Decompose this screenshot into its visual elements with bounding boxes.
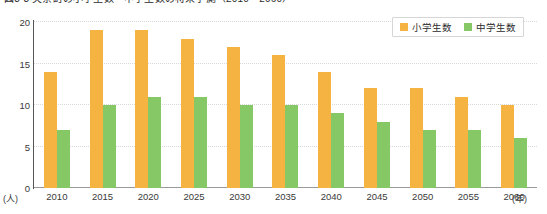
y-axis-tick-labels: 05101520 (0, 22, 30, 188)
bar (227, 47, 240, 188)
x-tick-label: 2030 (229, 191, 250, 202)
bar-group (400, 22, 446, 188)
y-tick-label: 15 (2, 58, 30, 69)
legend-label: 小学生数 (412, 20, 452, 34)
y-tick-label: 5 (2, 141, 30, 152)
x-tick-label: 2045 (366, 191, 387, 202)
bar-group (446, 22, 492, 188)
legend-item[interactable]: 中学生数 (464, 20, 516, 34)
x-tick-label: 2050 (412, 191, 433, 202)
bar-group (125, 22, 171, 188)
bar (103, 105, 116, 188)
x-tick-label: 2010 (46, 191, 67, 202)
bar-group (491, 22, 537, 188)
bar-group (171, 22, 217, 188)
y-tick-label: 10 (2, 100, 30, 111)
bar (377, 122, 390, 188)
bar (455, 97, 468, 188)
legend-item[interactable]: 小学生数 (400, 20, 452, 34)
bar (364, 88, 377, 188)
bar (285, 105, 298, 188)
x-axis-tick-labels: 2010201520202025203020352040204520502055… (34, 191, 537, 205)
legend-swatch-icon (464, 23, 472, 31)
x-tick-label: 2055 (458, 191, 479, 202)
chart-title: 図3-3 矢祭町の小学生数・中学生数の将来予測（2010～2060） (4, 0, 293, 5)
bar (501, 105, 514, 188)
bar-group (80, 22, 126, 188)
chart-legend: 小学生数中学生数 (392, 17, 524, 37)
x-tick-label: 2040 (321, 191, 342, 202)
x-axis-unit-label: (年) (512, 192, 527, 205)
bar (194, 97, 207, 188)
bar (410, 88, 423, 188)
x-tick-label: 2035 (275, 191, 296, 202)
bar (57, 130, 70, 188)
bar (240, 105, 253, 188)
bar (514, 138, 527, 188)
x-tick-label: 2015 (92, 191, 113, 202)
chart-figure: 図3-3 矢祭町の小学生数・中学生数の将来予測（2010～2060） 05101… (0, 0, 547, 214)
bar (148, 97, 161, 188)
bar (181, 39, 194, 188)
legend-label: 中学生数 (476, 20, 516, 34)
y-axis-unit-label: (人) (3, 192, 18, 205)
y-tick-label: 20 (2, 17, 30, 28)
bar (318, 72, 331, 188)
bar (44, 72, 57, 188)
bar-group (308, 22, 354, 188)
bar-group (34, 22, 80, 188)
plot-area (34, 22, 537, 188)
bar (331, 113, 344, 188)
bar-group (217, 22, 263, 188)
bar-group (263, 22, 309, 188)
bar (272, 55, 285, 188)
bar (468, 130, 481, 188)
bar-group (354, 22, 400, 188)
x-tick-label: 2025 (183, 191, 204, 202)
bar (423, 130, 436, 188)
x-tick-label: 2020 (138, 191, 159, 202)
legend-swatch-icon (400, 23, 408, 31)
bar (135, 30, 148, 188)
bar (90, 30, 103, 188)
